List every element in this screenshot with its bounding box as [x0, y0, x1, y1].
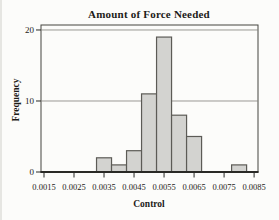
- x-axis-title: Control: [133, 199, 165, 209]
- histogram-bar: [157, 37, 172, 172]
- chart-title: Amount of Force Needed: [88, 8, 210, 20]
- histogram-bar: [187, 136, 202, 172]
- histogram-bar: [142, 94, 157, 172]
- histogram-bar: [127, 151, 142, 172]
- histogram-chart: 0.00150.00250.00350.00450.00550.00650.00…: [0, 0, 279, 220]
- x-tick-label: 0.0015: [32, 182, 55, 192]
- histogram-bar: [97, 158, 112, 172]
- x-tick-label: 0.0075: [212, 182, 235, 192]
- x-tick-label: 0.0035: [92, 182, 115, 192]
- x-tick-label: 0.0065: [182, 182, 205, 192]
- histogram-bar: [232, 165, 247, 172]
- x-tick-label: 0.0055: [152, 182, 175, 192]
- x-tick-label: 0.0025: [62, 182, 85, 192]
- x-tick-label: 0.0045: [122, 182, 145, 192]
- x-tick-label: 0.0085: [242, 182, 265, 192]
- y-tick-label: 0: [30, 167, 35, 177]
- histogram-bar: [172, 115, 187, 172]
- y-tick-label: 10: [25, 96, 35, 106]
- chart-page: 0.00150.00250.00350.00450.00550.00650.00…: [0, 0, 279, 220]
- histogram-bar: [112, 165, 127, 172]
- y-axis-title: Frequency: [11, 78, 21, 121]
- y-tick-label: 20: [25, 25, 35, 35]
